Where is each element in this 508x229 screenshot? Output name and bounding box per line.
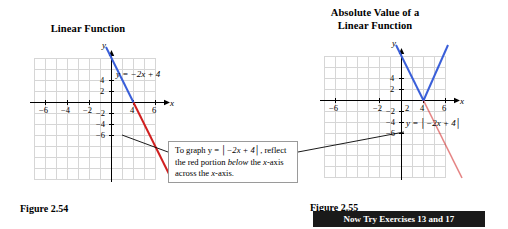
leader-line-left (122, 135, 168, 152)
callout-line1-c: , reflect (260, 145, 286, 155)
callout-line2-b: below (228, 157, 249, 167)
callout-leader-lines (0, 0, 508, 229)
callout-line1-b: │−2x + 4│ (221, 145, 260, 155)
callout-line3-d: -axis. (215, 168, 234, 178)
callout-box: To graph y = │−2x + 4│, reflect the red … (168, 141, 298, 183)
left-figure-caption: Figure 2.54 (20, 203, 68, 214)
callout-line2-c: the (248, 157, 261, 167)
now-try-exercises-banner: Now Try Exercises 13 and 17 (313, 211, 485, 227)
callout-line2-a: the red portion (175, 157, 228, 167)
figure-stage: Linear Function Absolute Value of a Line… (0, 0, 508, 229)
leader-line-right (298, 132, 404, 152)
callout-line1-a: To graph y = (175, 145, 221, 155)
